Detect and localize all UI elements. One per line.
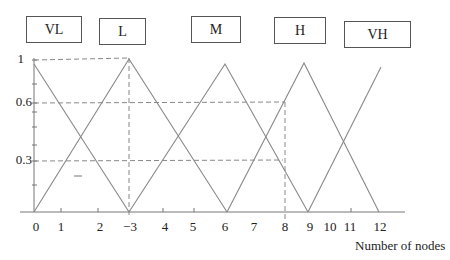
x-tick-label: 4 bbox=[162, 219, 169, 235]
x-tick-label: 0 bbox=[33, 219, 40, 235]
x-tick-label: 9 bbox=[307, 219, 314, 235]
x-tick-label: 1 bbox=[58, 219, 65, 235]
x-tick-label: 11 bbox=[344, 219, 357, 235]
x-axis-title: Number of nodes bbox=[355, 238, 445, 254]
series-m bbox=[129, 64, 308, 212]
y-tick-label-0-6: 0.6 bbox=[2, 94, 32, 110]
membership-curves bbox=[34, 59, 381, 212]
y-tick-label-0-3: 0.3 bbox=[2, 152, 32, 168]
x-tick-label: 5 bbox=[190, 219, 197, 235]
x-tick-label: 6 bbox=[222, 219, 229, 235]
x-tick-label: 10 bbox=[324, 219, 337, 235]
x-tick-label: 7 bbox=[251, 219, 258, 235]
y-tick-label-1: 1 bbox=[8, 51, 24, 67]
x-tick-label: −3 bbox=[123, 219, 137, 235]
series-vh bbox=[308, 67, 381, 212]
x-tick-label: 2 bbox=[97, 219, 104, 235]
series-h bbox=[227, 63, 379, 212]
x-tick-label: 8 bbox=[282, 219, 289, 235]
reference-lines bbox=[34, 58, 285, 222]
series-l bbox=[34, 59, 227, 212]
x-tick-label: 12 bbox=[374, 219, 387, 235]
